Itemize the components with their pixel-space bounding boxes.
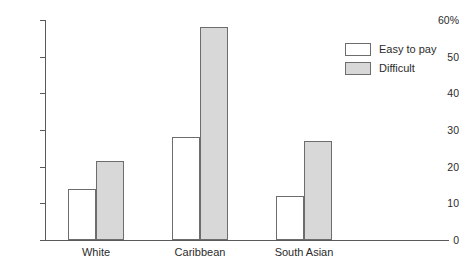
legend-swatch-difficult [345,62,371,75]
y-axis-tick-label: 0 [425,235,459,245]
y-axis-tick-mark [40,57,45,58]
x-axis-label-caribbean: Caribbean [140,246,260,259]
legend-item-difficult: Difficult [345,60,436,76]
bar-south-asian-difficult [304,141,332,240]
legend-item-easy-to-pay: Easy to pay [345,41,436,57]
y-axis-tick-mark [40,167,45,168]
x-axis-label-south-asian: South Asian [244,246,364,259]
y-axis-tick-mark [40,240,45,241]
bar-caribbean-easy-to-pay [172,137,200,240]
y-axis-tick-label: 40 [425,88,459,98]
y-axis-tick-mark [40,20,45,21]
y-axis-tick-mark [40,203,45,204]
y-axis-tick-label: 10 [425,198,459,208]
legend-label-easy-to-pay: Easy to pay [379,43,436,56]
x-axis-line [45,240,449,241]
y-axis-tick-label: 20 [425,162,459,172]
y-axis-tick-mark [40,93,45,94]
bar-chart: 0102030405060% WhiteCaribbeanSouth Asian… [0,0,459,273]
bar-caribbean-difficult [200,27,228,240]
y-axis-tick-mark [40,130,45,131]
bar-white-easy-to-pay [68,189,96,240]
y-axis-line [45,20,46,241]
y-axis-tick-label: 60% [425,15,459,25]
x-axis-label-white: White [36,246,156,259]
legend-swatch-easy-to-pay [345,43,371,56]
y-axis-tick-label: 30 [425,125,459,135]
legend-label-difficult: Difficult [379,62,415,75]
bar-south-asian-easy-to-pay [276,196,304,240]
chart-legend: Easy to pay Difficult [345,41,436,79]
bar-white-difficult [96,161,124,240]
